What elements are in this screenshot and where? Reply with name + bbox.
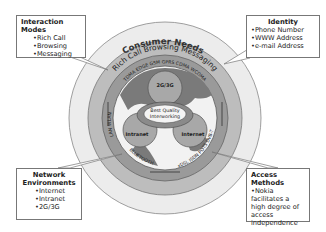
svg-text:Internet: Internet [181,131,205,137]
list-item: Phone Number [251,26,315,34]
svg-text:Interworking: Interworking [150,114,180,119]
callout-title: Interaction Modes [21,18,81,34]
list-item: 2G/3G [35,203,77,211]
list-item: Messaging [33,50,81,58]
svg-text:2G/3G: 2G/3G [157,82,174,88]
callout-title: Access Methods [251,171,305,187]
list-item: Internet [35,187,77,195]
list-item: Nokia facilitates a high degree of acces… [251,187,305,227]
callout-title: Network [21,171,77,179]
network-environments-callout: Network Environments Internet Intranet 2… [16,168,82,220]
svg-text:Best Quality: Best Quality [150,108,179,113]
list-item: Intranet [35,195,77,203]
interaction-modes-callout: Interaction Modes Rich Call Browsing Mes… [16,15,86,58]
callout-title: Identity [251,18,315,26]
list-item: Rich Call [33,34,81,42]
callout-title: Environments [21,179,77,187]
access-methods-callout: Access Methods Nokia facilitates a high … [246,168,310,222]
identity-callout: Identity Phone Number WWW Address e-mail… [246,15,320,58]
list-item: WWW Address [251,34,315,42]
list-item: e-mail Address [251,42,315,50]
list-item: Browsing [33,42,81,50]
node-2g3g [148,71,182,105]
svg-text:Intranet: Intranet [126,131,150,137]
